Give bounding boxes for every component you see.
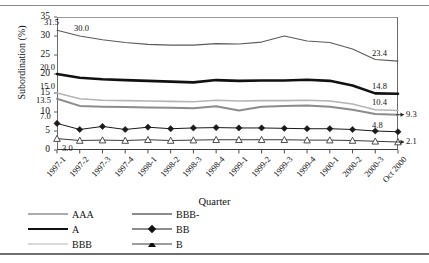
page-rule-bottom	[0, 253, 429, 255]
legend-swatch-aaa	[28, 209, 68, 219]
legend-item-a[interactable]: A	[28, 222, 79, 236]
page-rule-top	[0, 5, 429, 6]
y-tick-label: 5	[16, 126, 50, 136]
legend-item-bb[interactable]: BB	[132, 222, 189, 236]
end-label-bb: 4.8	[372, 121, 383, 130]
legend-marker-diamond-icon	[148, 225, 156, 233]
x-axis-title: Quarter	[0, 196, 429, 207]
legend-label: AAA	[72, 209, 94, 220]
legend-label: A	[72, 224, 79, 235]
legend-swatch-bbb	[28, 239, 68, 249]
y-tick-label: 30	[16, 31, 50, 41]
legend-label: BBB-	[176, 209, 199, 220]
legend-marker-triangle-inner	[150, 239, 154, 243]
end-label-arrowhead	[401, 140, 405, 144]
chart-legend: AAAABBBBBB-BBB	[28, 207, 238, 251]
end-label-arrowhead	[401, 112, 405, 116]
legend-label: BBB	[72, 239, 92, 250]
plot-area	[57, 17, 398, 150]
legend-label: BB	[176, 224, 189, 235]
legend-swatch-bb	[132, 224, 172, 234]
end-label-bbb-minus: 9.3	[406, 110, 417, 119]
legend-item-aaa[interactable]: AAA	[28, 207, 94, 221]
start-label-bb: 7.0	[40, 112, 51, 121]
start-label-aaa: 31.5	[44, 18, 59, 27]
start-label-a: 20.0	[40, 63, 55, 72]
y-tick-label: 0	[16, 145, 50, 155]
legend-swatch-a	[28, 224, 68, 234]
end-label-b: 2.1	[406, 137, 417, 146]
legend-marker-triangle-icon	[148, 241, 156, 247]
start-label-bbb-minus: 13.5	[36, 96, 51, 105]
y-tick-label: 25	[16, 50, 50, 60]
legend-item-b[interactable]: B	[132, 237, 183, 251]
start-label-aaa-second: 30.0	[74, 24, 89, 33]
start-label-bbb: 15.0	[40, 82, 55, 91]
legend-item-bbb[interactable]: BBB	[28, 237, 92, 251]
end-label-a: 14.8	[372, 82, 387, 91]
end-label-aaa: 23.4	[372, 49, 387, 58]
legend-label: B	[176, 239, 183, 250]
start-label-b: 3.0	[62, 144, 73, 153]
legend-swatch-bbb-	[132, 209, 172, 219]
legend-item-bbb-[interactable]: BBB-	[132, 207, 199, 221]
end-label-bbb: 10.4	[372, 98, 387, 107]
chart-page: Subordination (%) 05101520253035 1997-11…	[0, 0, 429, 263]
legend-swatch-b	[132, 239, 172, 249]
